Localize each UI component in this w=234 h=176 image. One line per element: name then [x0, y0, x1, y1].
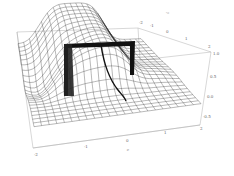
- svg-text:0.5: 0.5: [210, 74, 217, 79]
- svg-text:1: 1: [185, 36, 188, 41]
- z-axis-ticks: 1.0 0.5 0.0 -0.5: [203, 51, 220, 119]
- surface-plot: -2 -1 0 1 2 x -2 -1 0 1 2 y 1.0 0.5 0.0 …: [0, 0, 234, 176]
- svg-text:-0.5: -0.5: [203, 114, 211, 119]
- svg-text:-1: -1: [150, 23, 154, 28]
- svg-text:0: 0: [126, 138, 129, 143]
- svg-text:0.0: 0.0: [207, 94, 214, 99]
- svg-text:2: 2: [200, 126, 203, 131]
- svg-text:1: 1: [164, 130, 167, 135]
- surface-mesh: [18, 3, 201, 127]
- svg-text:-2: -2: [139, 20, 143, 25]
- svg-text:1.0: 1.0: [213, 51, 220, 56]
- x-axis-ticks: -2 -1 0 1 2: [34, 126, 203, 157]
- y-axis-label: y: [166, 11, 170, 14]
- svg-text:-2: -2: [34, 152, 38, 157]
- svg-text:0: 0: [166, 29, 169, 34]
- x-axis-label: x: [126, 149, 130, 151]
- svg-text:2: 2: [208, 44, 211, 49]
- y-axis-ticks: -2 -1 0 1 2: [139, 20, 211, 49]
- svg-text:-1: -1: [84, 144, 88, 149]
